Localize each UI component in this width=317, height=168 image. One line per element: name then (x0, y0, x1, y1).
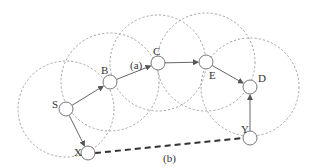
node-c (151, 56, 165, 70)
node-label-b: B (101, 64, 108, 76)
node-s (59, 102, 73, 116)
annotation-label: (a) (130, 59, 143, 72)
annotation-label: (b) (163, 152, 176, 165)
edge-c-e (165, 62, 198, 63)
diagram-canvas: SBCEDYX (a)(b) (0, 0, 317, 168)
node-label-e: E (209, 69, 216, 81)
node-d (243, 80, 257, 94)
node-label-d: D (258, 72, 266, 84)
routing-diagram: SBCEDYX (a)(b) (0, 0, 317, 168)
node-b (103, 75, 117, 89)
node-label-x: X (74, 146, 82, 158)
node-x (81, 146, 95, 160)
edge-s-b (72, 86, 103, 105)
node-label-s: S (52, 98, 58, 110)
node-e (199, 55, 213, 69)
node-label-y: Y (241, 123, 249, 135)
edge-e-d (212, 65, 243, 83)
edge-s-x (69, 115, 84, 146)
node-label-c: C (153, 45, 160, 57)
dashed-link-x-y (95, 138, 243, 153)
